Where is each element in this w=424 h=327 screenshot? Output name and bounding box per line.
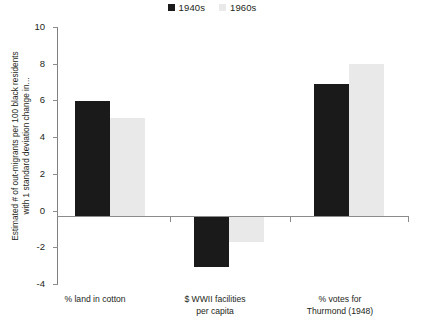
legend-label-1940s: 1940s (179, 3, 205, 13)
bar-chart: 1940s 1960s Estimated # of out-migrants … (0, 0, 424, 327)
plot-area: 10 8 6 4 2 0 -2 -4 (57, 27, 409, 284)
y-tick-neg2 (53, 247, 58, 248)
legend-label-1960s: 1960s (230, 3, 256, 13)
x-axis-label-group-1-line1: % land in cotton (64, 294, 125, 304)
x-axis-label-group-2-line1: $ WWII facilities (184, 294, 245, 304)
y-tick-label-10: 10 (5, 22, 45, 32)
y-tick-label-4: 4 (5, 132, 45, 142)
y-tick-8 (53, 64, 58, 65)
y-tick-label-2: 2 (5, 169, 45, 179)
bar-1960s-wwii-facilities (229, 217, 264, 243)
legend-swatch-1960s (219, 4, 226, 11)
y-tick-label-neg2: -2 (5, 242, 45, 252)
legend-swatch-1940s (168, 4, 175, 11)
x-axis-label-group-3-line2: Thurmond (1948) (307, 306, 373, 316)
y-tick-neg4 (53, 284, 58, 285)
bar-1940s-land-in-cotton (75, 101, 110, 216)
legend-item-1960s: 1960s (219, 3, 256, 13)
x-axis-label-group-1: % land in cotton (40, 293, 150, 305)
x-tick-group-sep-2 (290, 216, 291, 222)
y-tick-label-neg4: -4 (5, 279, 45, 289)
y-tick-10 (53, 27, 58, 28)
x-axis-label-group-2-line2: per capita (196, 306, 234, 316)
bar-1940s-thurmond-votes (314, 84, 349, 217)
x-tick-group-sep-1 (170, 216, 171, 222)
y-axis-line (57, 27, 58, 284)
x-axis-label-group-3: % votes for Thurmond (1948) (280, 293, 400, 317)
y-tick-label-0: 0 (5, 206, 45, 216)
x-axis-label-group-2: $ WWII facilities per capita (160, 293, 270, 317)
y-tick-0 (53, 211, 58, 212)
bar-1960s-thurmond-votes (349, 64, 384, 217)
legend-item-1940s: 1940s (168, 3, 205, 13)
y-tick-label-6: 6 (5, 95, 45, 105)
chart-legend: 1940s 1960s (0, 3, 424, 13)
x-axis-label-group-3-line1: % votes for (319, 294, 362, 304)
bar-1940s-wwii-facilities (194, 217, 229, 268)
y-tick-6 (53, 100, 58, 101)
bar-1960s-land-in-cotton (110, 118, 145, 217)
y-tick-2 (53, 174, 58, 175)
y-tick-4 (53, 137, 58, 138)
y-tick-label-8: 8 (5, 59, 45, 69)
x-tick-axis-end (408, 216, 409, 222)
